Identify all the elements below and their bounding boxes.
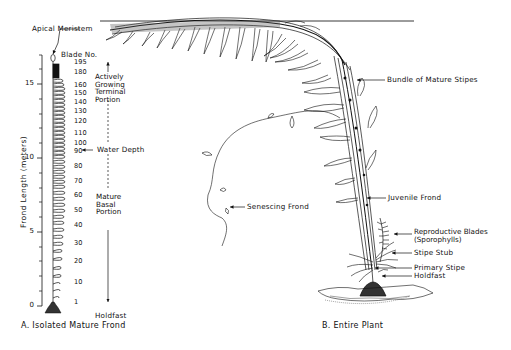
- growing-portion-label: Actively Growing Terminal Portion: [95, 73, 125, 103]
- holdfast-label-a: Holdfast: [95, 312, 126, 320]
- blade-number: 110: [74, 130, 87, 137]
- reproductive-label: Reproductive Blades (Sporophylls): [414, 228, 488, 243]
- frond-length-axis: [37, 55, 42, 306]
- basal-portion-label: Mature Basal Portion: [96, 193, 121, 216]
- water-depth-label: Water Depth: [97, 146, 145, 154]
- blade-number: 130: [74, 108, 87, 115]
- blade-number: 120: [74, 118, 87, 125]
- isolated-frond: [45, 55, 65, 314]
- y-tick-10: 10: [20, 153, 34, 161]
- juvenile-label: Juvenile Frond: [388, 194, 441, 202]
- apical-meristem-label: Apical Meristem: [32, 25, 93, 33]
- blade-number: 40: [74, 222, 82, 229]
- holdfast-label-b: Holdfast: [414, 272, 445, 280]
- y-tick-15: 15: [20, 79, 34, 87]
- bundle-label: Bundle of Mature Stipes: [387, 76, 478, 84]
- entire-plant: [106, 18, 433, 304]
- y-axis-title: Frond Length (meters): [19, 136, 28, 228]
- blade-number: 180: [74, 69, 87, 76]
- y-tick-5: 5: [20, 227, 34, 235]
- blade-number: 10: [74, 279, 82, 286]
- blade-number: 30: [74, 240, 82, 247]
- blade-number: 140: [74, 99, 87, 106]
- blade-number: 50: [74, 207, 82, 214]
- blade-number: 60: [74, 192, 82, 199]
- blade-number: 1: [74, 299, 78, 306]
- blade-number: 100: [74, 140, 87, 147]
- blade-number: 70: [74, 178, 82, 185]
- blade-number: 20: [74, 258, 82, 265]
- blade-number: 90: [74, 148, 82, 155]
- y-tick-0: 0: [20, 301, 34, 309]
- blade-number: 195: [74, 59, 87, 66]
- kelp-diagram: Apical Meristem Blade No. Frond Length (…: [0, 0, 511, 350]
- senescing-label: Senescing Frond: [247, 203, 309, 211]
- panel-b-caption: B. Entire Plant: [322, 321, 383, 330]
- panel-a-caption: A. Isolated Mature Frond: [21, 321, 126, 330]
- blade-number: 80: [74, 163, 82, 170]
- stipe-stub-label: Stipe Stub: [414, 249, 453, 257]
- blade-number: 150: [74, 90, 87, 97]
- blade-number: 160: [74, 82, 87, 89]
